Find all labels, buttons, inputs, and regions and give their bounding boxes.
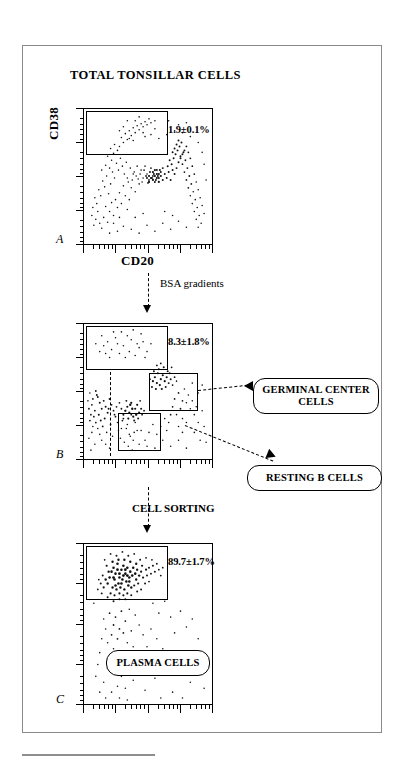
leader-head-germinal-center [244,381,253,391]
callout-resting-b-cells[interactable]: RESTING B CELLS [247,465,382,491]
x-axis-ticks-c [83,705,213,714]
y-axis-ticks-b [75,323,84,460]
gate-percent-b: 8.3±1.8% [168,336,210,347]
gate-box-a [86,111,168,155]
gate-box-b-main [86,326,168,370]
callout-germinal-center-cells[interactable]: GERMINAL CENTER CELLS [253,378,379,414]
bsa-gradient-arrow-line [148,273,149,307]
footer-rule [22,754,155,756]
step-label-cell-sorting: CELL SORTING [132,502,214,514]
step-label-bsa-gradients: BSA gradients [160,277,224,289]
gate-percent-c: 89.7±1.7% [168,556,215,567]
panel-label-c: C [56,692,64,707]
gate-divider-b [110,372,111,456]
gate-box-b-resting-b [118,413,161,451]
cell-sorting-arrow-head [143,525,151,533]
panel-label-b: B [56,447,63,462]
y-axis-ticks-a [75,108,84,245]
panel-label-a: A [56,232,63,247]
callout-plasma-cells[interactable]: PLASMA CELLS [106,650,210,676]
gate-box-c [86,546,168,600]
y-axis-ticks-c [75,543,84,705]
page-title: TOTAL TONSILLAR CELLS [70,68,241,83]
bsa-gradient-arrow-head [143,305,151,313]
gate-box-b-germinal-center [149,373,198,411]
y-axis-label: CD38 [46,107,62,140]
x-axis-ticks-b [83,460,213,469]
gate-percent-a: 1.9±0.1% [168,124,210,135]
x-axis-label: CD20 [121,253,154,269]
scatter-panel-c [83,543,213,705]
